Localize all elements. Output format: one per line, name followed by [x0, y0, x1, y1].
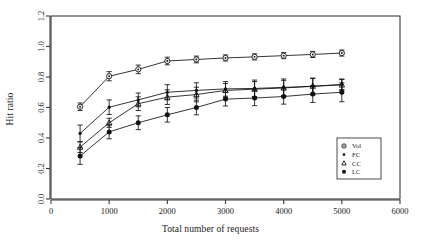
data-point-marker-circle-dot — [281, 53, 286, 58]
y-tick-label: 0.8 — [36, 72, 46, 83]
legend-label: LC — [352, 168, 361, 175]
data-point-marker-circle-dot — [252, 54, 257, 59]
data-point-marker-circle-dot — [194, 57, 199, 62]
data-point-marker-filled-circle — [342, 170, 346, 174]
data-point-marker-filled-circle — [223, 97, 228, 102]
x-tick-label: 5000 — [333, 206, 350, 216]
data-point-marker-circle-dot — [339, 50, 344, 55]
y-tick-label: 1.2 — [36, 11, 46, 22]
x-tick-label: 3000 — [217, 206, 234, 216]
data-point-marker-filled-circle — [252, 96, 257, 101]
data-point-marker-circle-dot — [77, 104, 82, 109]
data-point-marker-filled-circle — [310, 92, 315, 97]
data-point-marker-filled-circle — [136, 120, 141, 125]
data-point-marker-circle-dot — [165, 58, 170, 63]
data-point-marker-circle-dot — [107, 74, 112, 79]
y-tick-label: 0.0 — [36, 194, 46, 205]
chart-figure: 0100020003000400050006000 0.00.20.40.60.… — [0, 0, 421, 252]
data-point-marker-small-dot — [343, 153, 346, 156]
chart-canvas: 0100020003000400050006000 0.00.20.40.60.… — [0, 0, 421, 252]
data-point-marker-filled-circle — [339, 90, 344, 95]
x-axis-title: Total number of requests — [0, 224, 421, 234]
data-point-marker-small-dot — [108, 106, 111, 109]
data-point-marker-circle-dot — [342, 144, 346, 148]
legend-label: CC — [352, 160, 361, 167]
data-point-marker-filled-circle — [281, 94, 286, 99]
y-tick-label: 0.2 — [36, 163, 46, 174]
data-point-marker-filled-circle — [194, 105, 199, 110]
chart-legend: VolFCCCLC — [337, 138, 381, 179]
legend-label: Vol — [352, 142, 361, 149]
y-tick-label: 0.6 — [36, 102, 46, 113]
data-point-marker-circle-dot — [223, 55, 228, 60]
data-point-marker-filled-circle — [107, 129, 112, 134]
x-tick-label: 0 — [49, 206, 53, 216]
chart-background — [0, 0, 421, 252]
y-axis-title: Hit ratio — [5, 77, 15, 141]
data-point-marker-small-dot — [78, 132, 81, 135]
x-tick-label: 1000 — [101, 206, 118, 216]
data-point-marker-filled-circle — [165, 112, 170, 117]
data-point-marker-circle-dot — [310, 52, 315, 57]
x-tick-label: 6000 — [392, 206, 409, 216]
y-tick-label: 0.4 — [36, 132, 46, 143]
data-point-marker-filled-circle — [78, 153, 83, 158]
x-tick-label: 2000 — [159, 206, 176, 216]
x-tick-label: 4000 — [275, 206, 292, 216]
legend-label: FC — [352, 151, 361, 158]
data-point-marker-circle-dot — [136, 67, 141, 72]
y-tick-label: 1.0 — [36, 41, 46, 52]
